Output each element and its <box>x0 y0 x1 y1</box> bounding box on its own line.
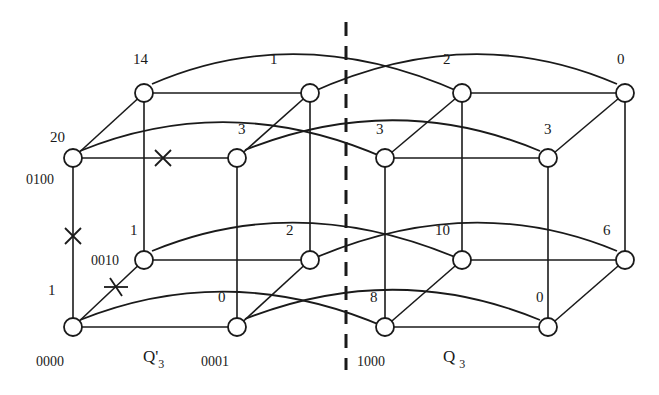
node <box>301 251 319 269</box>
right-cube-edges <box>385 93 625 327</box>
node <box>135 84 153 102</box>
node-value: 6 <box>603 222 611 238</box>
node-value: 2 <box>443 51 451 67</box>
node <box>453 84 471 102</box>
node-value-labels: 14 1 2 0 20 3 3 3 1 2 10 6 1 0 8 0 <box>48 51 625 305</box>
right-cube-label: Q3 <box>443 347 465 371</box>
address-label: 1000 <box>357 354 385 369</box>
node-value: 0 <box>536 289 544 305</box>
node <box>616 84 634 102</box>
node <box>616 251 634 269</box>
left-cube-label: Q'3 <box>143 347 164 371</box>
node-value: 1 <box>270 51 278 67</box>
address-labels: 0100 0010 0000 0001 1000 <box>26 172 385 369</box>
left-cube-edges <box>73 93 310 327</box>
address-label: 0000 <box>36 354 64 369</box>
node-value: 3 <box>544 121 552 137</box>
address-label: 0010 <box>91 253 119 268</box>
node <box>64 149 82 167</box>
node <box>539 149 557 167</box>
node-value: 8 <box>370 289 378 305</box>
node-value: 10 <box>435 222 450 238</box>
node <box>539 318 557 336</box>
node <box>376 149 394 167</box>
hypercube-diagram: 14 1 2 0 20 3 3 3 1 2 10 6 1 0 8 0 0100 … <box>0 0 659 395</box>
node-value: 14 <box>133 51 149 67</box>
faulty-link-markers <box>65 150 171 296</box>
address-label: 0100 <box>26 172 54 187</box>
node-value: 3 <box>238 121 246 137</box>
node <box>301 84 319 102</box>
node-value: 20 <box>50 129 65 145</box>
node-value: 1 <box>48 282 56 298</box>
address-label: 0001 <box>201 354 229 369</box>
node <box>453 251 471 269</box>
node-value: 3 <box>376 121 384 137</box>
node-value: 0 <box>617 51 625 67</box>
node-value: 2 <box>286 222 294 238</box>
node <box>376 318 394 336</box>
node <box>135 251 153 269</box>
node-value: 0 <box>218 289 226 305</box>
node <box>64 318 82 336</box>
node <box>228 318 246 336</box>
node <box>228 149 246 167</box>
cross-cube-arcs <box>80 54 617 327</box>
node-value: 1 <box>130 222 138 238</box>
